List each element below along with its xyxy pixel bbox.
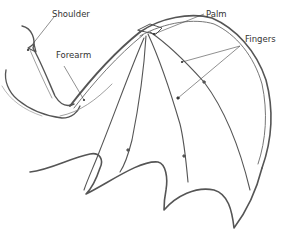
upper-arm-outline — [22, 26, 74, 106]
finger-bone-3 — [120, 36, 146, 172]
forearm-label: Forearm — [56, 51, 91, 60]
wing-trailing-edge — [30, 154, 262, 228]
finger-bone-2 — [148, 34, 188, 182]
fingers-label: Fingers — [245, 35, 276, 44]
bat-wing-diagram: Shoulder Forearm Palm Fingers — [0, 0, 282, 239]
forearm-pointer — [64, 66, 84, 100]
wing-drawing — [0, 0, 282, 239]
shoulder-label: Shoulder — [52, 10, 90, 19]
fingers-pointer-1 — [182, 46, 240, 62]
finger-bone-1 — [150, 32, 250, 190]
body-outline — [6, 70, 81, 118]
fingers-pointer-2 — [178, 46, 240, 98]
palm-label: Palm — [206, 10, 227, 19]
forearm-bone — [70, 32, 140, 106]
